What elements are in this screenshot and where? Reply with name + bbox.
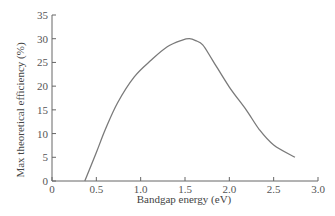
efficiency-curve <box>85 39 295 181</box>
x-tick-label: 0.5 <box>89 183 103 195</box>
y-tick-label: 5 <box>43 151 49 163</box>
y-tick-label: 15 <box>37 104 49 116</box>
efficiency-chart: 00.51.01.52.02.53.005101520253035 Bandga… <box>0 0 335 216</box>
x-tick-label: 2.5 <box>267 183 281 195</box>
y-tick-label: 35 <box>37 9 49 21</box>
y-tick-label: 20 <box>37 80 49 92</box>
x-tick-label: 3.0 <box>311 183 325 195</box>
y-axis-title: Max theoretical efficiency (%) <box>14 42 27 177</box>
x-tick-label: 0 <box>49 183 55 195</box>
axes: 00.51.01.52.02.53.005101520253035 <box>37 9 325 195</box>
y-tick-label: 25 <box>37 56 49 68</box>
x-axis-title: Bandgap energy (eV) <box>137 193 232 206</box>
y-tick-label: 0 <box>43 175 49 187</box>
y-tick-label: 30 <box>37 33 49 45</box>
y-tick-label: 10 <box>37 128 49 140</box>
